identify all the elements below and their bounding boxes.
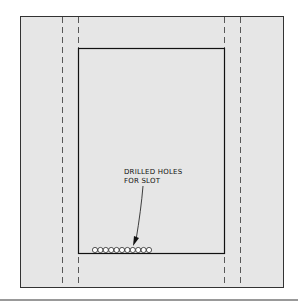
annotation-line1: DRILLED HOLES xyxy=(124,168,183,176)
annotation-line2: FOR SLOT xyxy=(124,177,161,185)
slot-drilling-diagram: DRILLED HOLES FOR SLOT xyxy=(0,0,298,305)
drilled-holes xyxy=(92,247,151,252)
inner-rectangle xyxy=(79,49,225,254)
